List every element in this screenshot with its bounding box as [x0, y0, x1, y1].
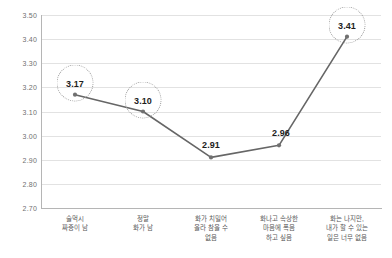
y-axis-tick-label: 3.00	[0, 133, 37, 140]
y-axis-tick-label: 3.10	[0, 109, 37, 116]
x-axis-tick-label-3: 화가 치밀어 올라 참을 수 없음	[172, 214, 250, 242]
y-axis-tick-label: 2.70	[0, 205, 37, 212]
y-axis-tick-label: 3.20	[0, 84, 37, 91]
data-point-marker	[277, 143, 281, 147]
data-label-point-3: 2.91	[202, 140, 220, 150]
data-label-point-1: 3.17	[66, 79, 84, 89]
data-point-marker	[209, 155, 213, 159]
x-axis-line	[41, 208, 382, 209]
x-axis-tick-label-2: 정말 화가 남	[104, 214, 182, 233]
y-axis-tick-label: 2.80	[0, 181, 37, 188]
data-label-point-5: 3.41	[338, 21, 356, 31]
data-series-line	[41, 15, 381, 208]
y-axis-tick-label: 3.50	[0, 12, 37, 19]
y-axis-tick-label: 3.40	[0, 36, 37, 43]
y-axis-line	[41, 15, 42, 209]
data-label-point-2: 3.10	[134, 96, 152, 106]
x-axis-tick-label-4: 화나고 속상한 마음에 폭음 하고 싶음	[240, 214, 318, 242]
x-axis-tick-label-5: 화는 나지만, 내가 할 수 있는 일은 너무 없음	[308, 214, 386, 242]
line-chart: 3.17 3.10 2.91 2.96 3.41 3.50 3.40 3.30 …	[0, 0, 392, 258]
y-axis-tick-label: 3.30	[0, 60, 37, 67]
plot-area: 3.17 3.10 2.91 2.96 3.41	[41, 15, 381, 208]
data-label-point-4: 2.96	[272, 128, 290, 138]
x-axis-tick-label-1: 술먹시 짜증이 남	[36, 214, 114, 233]
y-axis-tick-label: 2.90	[0, 157, 37, 164]
